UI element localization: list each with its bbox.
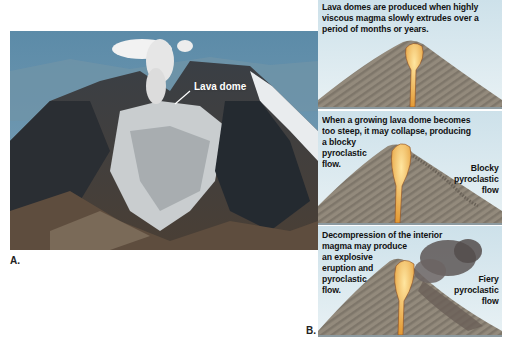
panel-1-caption: Lava domes are produced when highly visc… [322,2,479,35]
panel-2-caption: When a growing lava dome becomes too ste… [322,115,471,170]
lava-dome-annotation: Lava dome [194,81,246,92]
part-a-label: A. [10,255,20,266]
panel-blocky-pyroclastic-flow: When a growing lava dome becomes too ste… [318,111,502,225]
panel-3-caption: Decompression of the interior magma may … [322,230,442,296]
volcano-photo-illustration [10,31,318,250]
panel-lava-dome-growth: Lava domes are produced when highly visc… [318,0,502,109]
blocky-flow-label: Blocky pyroclastic flow [454,163,499,196]
volcano-photo: Lava dome [10,31,318,250]
fiery-flow-label: Fiery pyroclastic flow [454,274,499,307]
panel-fiery-pyroclastic-flow: Decompression of the interior magma may … [318,226,502,337]
part-b-label: B. [306,325,316,336]
